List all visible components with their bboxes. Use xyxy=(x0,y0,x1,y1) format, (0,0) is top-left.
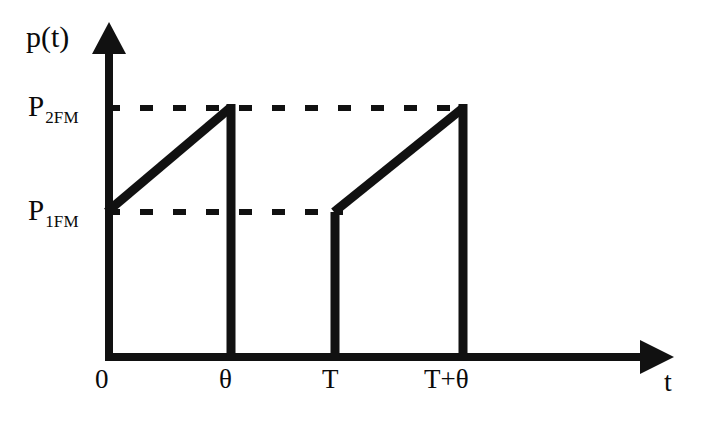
y-tick-label-p2fm: P2FM xyxy=(28,92,78,121)
waveform-ramp-1 xyxy=(107,108,230,212)
y-axis-label: p(t) xyxy=(26,22,69,52)
x-tick-label-zero: 0 xyxy=(95,366,109,393)
x-axis-label: t xyxy=(664,368,672,396)
waveform-ramp-2 xyxy=(334,108,463,212)
p1fm-subscript: 1FM xyxy=(45,213,79,230)
x-tick-label-T-plus-theta: T+θ xyxy=(424,366,469,393)
p1fm-base: P xyxy=(28,196,44,225)
x-tick-label-T: T xyxy=(322,366,339,393)
p2fm-subscript: 2FM xyxy=(45,109,79,126)
y-axis-arrowhead-icon xyxy=(92,22,126,54)
x-tick-label-theta: θ xyxy=(219,366,232,393)
waveform-plot xyxy=(0,0,706,425)
figure-root: p(t) t P2FM P1FM 0 θ T T+θ xyxy=(0,0,706,425)
y-tick-label-p1fm: P1FM xyxy=(28,196,78,225)
p2fm-base: P xyxy=(28,92,44,121)
